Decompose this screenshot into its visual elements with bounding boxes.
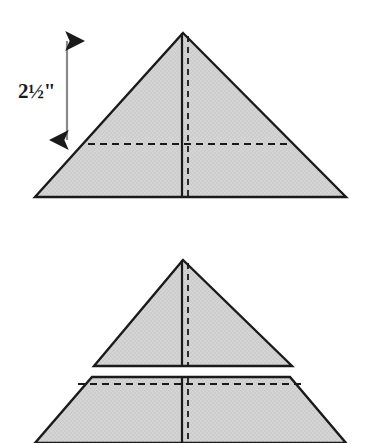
dimension-label-text: 2½" — [18, 79, 55, 103]
diagram-root: 2½" — [0, 0, 369, 443]
top-figure-group — [35, 33, 346, 197]
bottom-figure-group — [35, 377, 346, 443]
large-triangle-shape — [35, 33, 346, 197]
trapezoid-shape — [35, 377, 346, 443]
small-triangle-shape — [94, 260, 292, 366]
middle-figure-group — [94, 260, 292, 366]
dimension-annotation-group: 2½" — [18, 41, 67, 140]
diagram-canvas: 2½" — [0, 0, 369, 443]
